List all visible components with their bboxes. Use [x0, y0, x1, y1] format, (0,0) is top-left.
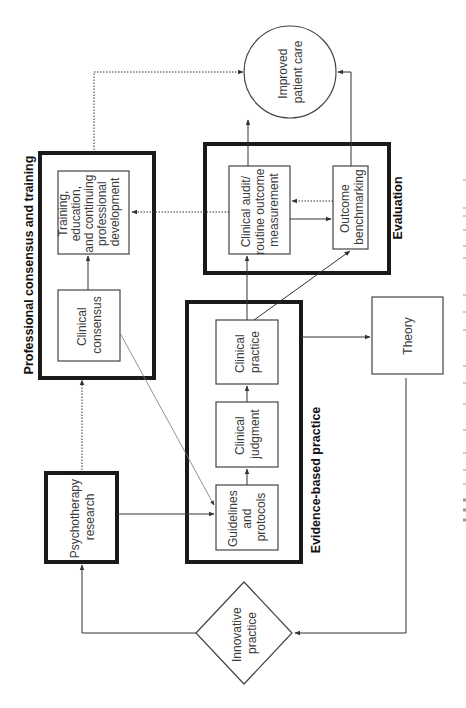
svg-text:Guidelines and pro: Guidelines and protocols [226, 487, 268, 547]
arrow-professional-to-care [94, 72, 243, 153]
svg-text:Theory: Theory [401, 317, 415, 354]
node-theory: Theory [372, 297, 443, 374]
svg-text:Training, education,: Training, education, and continuing prof… [56, 171, 122, 252]
node-clinical-judgment: Clinical judgment [216, 402, 278, 467]
svg-text:Outcome benchmarking: Outcome benchmarking [338, 169, 366, 244]
node-clinical-consensus: Clinical consensus [58, 290, 120, 361]
node-psychotherapy-research: Psychotherapy research [46, 473, 117, 562]
node-guidelines: Guidelines and protocols [216, 485, 278, 550]
node-improved-patient-care: Improved patient care [244, 26, 336, 118]
svg-text:Improved patient care: Improved patient care [276, 40, 305, 103]
arrow-innovative-to-research [82, 565, 196, 633]
arrow-consensus-to-guidelines [120, 333, 214, 505]
svg-text:Clinical judgment: Clinical judgment [233, 409, 262, 460]
group-label-evaluation: Evaluation [391, 176, 405, 239]
svg-text:Psychotherapy research: Psychotherapy research [68, 476, 97, 559]
group-label-ebp: Evidence-based practice [309, 407, 323, 554]
node-clinical-practice: Clinical practice [216, 320, 278, 384]
arrow-benchmarking-to-care [338, 72, 351, 166]
svg-text:Innovative practice: Innovative practice [230, 604, 259, 662]
node-clinical-audit: Clinical audit/ routine outcome measurem… [229, 165, 290, 254]
node-innovative-practice: Innovative practice [196, 582, 292, 684]
node-training: Training, education, and continuing prof… [56, 171, 129, 254]
svg-text:Clinical practice: Clinical practice [233, 331, 262, 373]
group-label-professional: Professional consensus and training [22, 156, 36, 375]
svg-text:Clinical audit/ routine: Clinical audit/ routine outcome measurem… [239, 165, 281, 254]
diagram-canvas: Improved patient care Professional conse… [0, 0, 466, 708]
node-outcome-benchmarking: Outcome benchmarking [333, 166, 368, 249]
svg-text:Clinical consensus: Clinical consensus [75, 296, 104, 353]
